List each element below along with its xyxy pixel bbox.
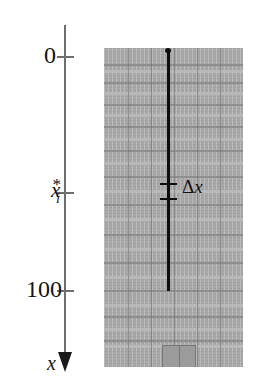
building-depth-diagram: Δx 0 xi* 100 x [0, 0, 258, 385]
delta-symbol: Δ [182, 176, 194, 197]
delta-x-label: Δx [182, 177, 203, 196]
axis-tick-0 [57, 56, 74, 58]
xi-superscript: * [52, 175, 61, 194]
axis-label-xi-star: xi* [51, 176, 61, 205]
down-arrow-icon [58, 352, 72, 372]
entrance-door [162, 345, 196, 367]
axis-label-100: 100 [26, 277, 62, 301]
window-column-divider [220, 48, 221, 367]
window-column-divider [197, 48, 198, 367]
delta-x-tick-top [160, 183, 177, 185]
window-column-divider [151, 48, 152, 367]
skyscraper [104, 48, 243, 367]
door-split-line [179, 346, 180, 367]
depth-measure-line [167, 50, 170, 291]
depth-axis-line [64, 25, 66, 355]
delta-x-variable: x [194, 176, 202, 197]
delta-x-tick-bottom [160, 198, 177, 200]
window-column-divider [174, 48, 175, 367]
axis-label-0: 0 [44, 43, 56, 67]
axis-variable-label: x [47, 353, 56, 373]
window-column-divider [128, 48, 129, 367]
